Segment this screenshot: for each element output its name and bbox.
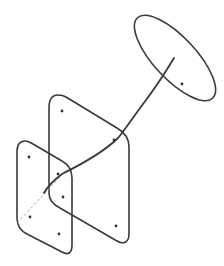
- point-dot: [29, 216, 32, 219]
- point-dot: [115, 225, 118, 228]
- curve-path: [44, 58, 174, 193]
- point-dot: [58, 233, 61, 236]
- point-dot: [181, 83, 184, 86]
- dots-layer: [28, 83, 184, 236]
- planes-layer: [17, 95, 129, 254]
- point-dot: [28, 156, 31, 159]
- diagram-svg: [0, 0, 224, 266]
- point-dot: [113, 139, 116, 142]
- large-plane-shape: [49, 95, 129, 243]
- point-dot: [61, 110, 64, 113]
- point-dot: [57, 173, 60, 176]
- point-dot: [62, 196, 65, 199]
- diagram-canvas: [0, 0, 224, 266]
